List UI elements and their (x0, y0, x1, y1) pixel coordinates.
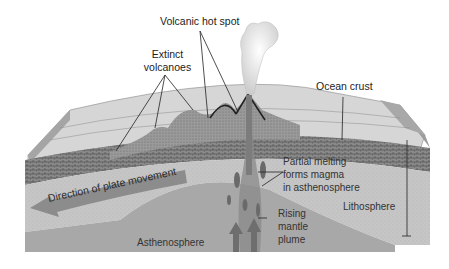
label-partial-melting-2: forms magma (283, 169, 344, 181)
label-rising-plume-3: plume (278, 234, 305, 246)
label-volcanic-hot-spot: Volcanic hot spot (160, 15, 239, 27)
volcano-smoke (241, 22, 279, 94)
label-rising-plume-2: mantle (278, 221, 308, 233)
label-rising-plume-1: Rising (278, 208, 306, 220)
hot-spot-diagram (0, 0, 449, 269)
label-extinct-volcanoes-1: Extinct (140, 48, 195, 60)
label-ocean-crust: Ocean crust (316, 80, 373, 92)
label-asthenosphere: Asthenosphere (137, 237, 204, 249)
label-lithosphere: Lithosphere (343, 201, 395, 213)
label-extinct-volcanoes-2: volcanoes (135, 61, 200, 73)
label-partial-melting-1: Partial melting (283, 156, 346, 168)
label-partial-melting-3: in asthenosphere (283, 182, 360, 194)
